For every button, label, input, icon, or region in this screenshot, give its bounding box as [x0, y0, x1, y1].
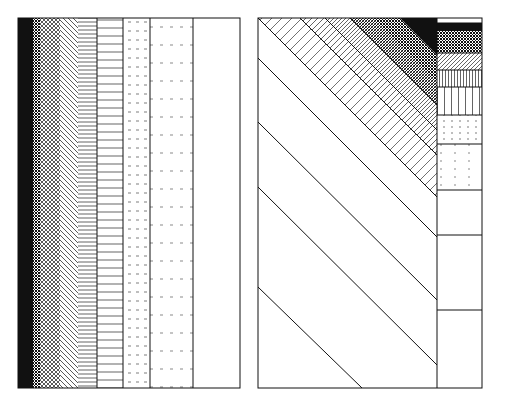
strip-row-blank-top: [437, 18, 482, 23]
strip-row-sparse-dotted: [437, 144, 482, 190]
right-panel: [258, 18, 482, 388]
band-solid-black: [18, 18, 33, 388]
strip-row-dotted-vertical: [437, 115, 482, 144]
band-dashed-lines: [123, 18, 150, 388]
band-blank: [193, 18, 240, 388]
strip-row-blank-3: [437, 310, 482, 388]
diagonal-bands: [258, 18, 437, 388]
band-crosshatch: [40, 18, 60, 388]
band-dense-crosshatch: [33, 18, 40, 388]
band-fine-horizontal: [78, 18, 97, 388]
strip-row-vertical-lines: [437, 87, 482, 115]
gradation-figure: [0, 0, 511, 410]
strip-row-diagonal-hatch: [437, 53, 482, 70]
strip-row-solid-black: [437, 23, 482, 31]
band-horizontal-lines: [97, 18, 123, 388]
left-panel: [18, 18, 240, 388]
tone-strip: [437, 18, 482, 388]
strip-row-blank-1: [437, 190, 482, 235]
strip-row-blank-2: [437, 235, 482, 310]
strip-row-crosshatch: [437, 31, 482, 53]
strip-row-dense-vertical: [437, 70, 482, 87]
band-sparse-dashed: [150, 18, 193, 388]
band-diagonal-hatch: [60, 18, 78, 388]
